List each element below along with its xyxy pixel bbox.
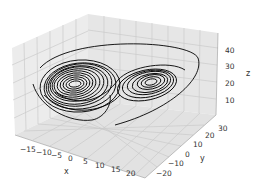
lorenz-3d-figure: −15 −10 −5 0 5 10 15 20 x −20 −10 0 10 2… [0,0,261,188]
z-tick: 30 [225,63,235,71]
y-tick: −20 [156,170,172,178]
z-tick: 40 [225,47,235,55]
y-tick: 20 [205,132,215,140]
x-tick: 10 [95,162,105,170]
y-tick: 30 [218,125,228,133]
plot-canvas [0,0,261,188]
y-tick: 0 [185,151,190,159]
z-tick: 10 [225,97,235,105]
x-axis-label: x [64,168,69,176]
x-tick: −10 [36,149,52,157]
z-axis-label: z [246,70,250,78]
x-tick: 15 [111,166,121,174]
z-tick: 20 [225,80,235,88]
x-tick: 5 [83,158,88,166]
y-tick: −10 [168,160,184,168]
x-tick: −15 [20,146,36,154]
y-axis-label: y [200,155,205,163]
x-tick: 0 [68,155,73,163]
y-tick: 10 [193,141,203,149]
x-tick: −5 [51,152,62,160]
x-tick: 20 [126,170,136,178]
